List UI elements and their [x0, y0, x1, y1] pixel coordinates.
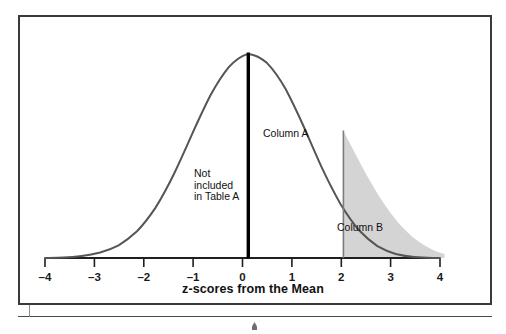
annotation-column-a: Column A — [263, 128, 309, 140]
caption-rule — [18, 316, 492, 317]
column-b-shaded-area — [343, 131, 444, 258]
annotation-not-included-line-3: in Table A — [194, 191, 239, 203]
x-axis-title: z-scores from the Mean — [0, 282, 506, 296]
figure-root: –4 –3 –2 –1 0 1 2 3 4 z-scores from the … — [0, 0, 506, 334]
x-axis-ticks — [45, 258, 440, 267]
annotation-not-included-line-1: Not — [194, 168, 239, 180]
caption-tick — [29, 305, 30, 317]
annotation-not-included: Not included in Table A — [194, 168, 239, 203]
annotation-column-b: Column B — [337, 222, 383, 234]
